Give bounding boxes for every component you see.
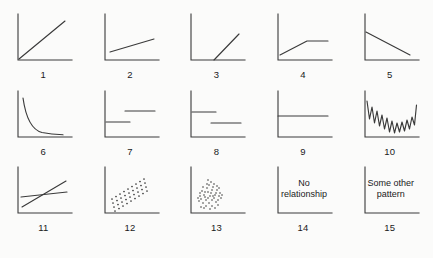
panel-cell-12: 12 [87,163,174,243]
panel-cell-8: 8 [173,87,260,167]
panel-cell-1: 1 [0,10,87,90]
panel-11-number: 11 [38,222,48,233]
panel-6-number: 6 [41,146,46,157]
panel-14-label: No relationship [270,178,336,207]
panel-5-plot [357,10,423,68]
panel-2-plot [97,10,163,68]
top-trim [0,0,433,7]
panel-6-plot [10,87,76,145]
panel-13-plot [183,163,249,221]
panel-7-plot [97,87,163,145]
panel-5-number: 5 [387,69,392,80]
panel-15-label: Some other pattern [357,178,423,207]
panel-cell-3: 3 [173,10,260,90]
panel-15-plot: Some other pattern [357,163,423,221]
panel-cell-11: 11 [0,163,87,243]
panel-12-number: 12 [124,222,135,233]
panel-1-plot [10,10,76,68]
panel-15-number: 15 [384,222,395,233]
pattern-figure: 1 2 3 [0,0,433,258]
panel-8-plot [183,87,249,145]
panel-8-number: 8 [214,146,219,157]
panel-cell-9: 9 [260,87,347,167]
panel-4-plot [270,10,336,68]
panel-15-text: Some other pattern [357,163,423,221]
panel-row-1: 1 2 3 [0,10,433,90]
panel-11-plot [10,163,76,221]
panel-14-plot: No relationship [270,163,336,221]
panel-12-plot [97,163,163,221]
panel-12-dots [111,178,148,212]
panel-cell-15: Some other pattern 15 [346,163,433,243]
panel-cell-6: 6 [0,87,87,167]
panel-9-number: 9 [300,146,305,157]
panel-13-number: 13 [211,222,222,233]
panel-cell-13: 13 [173,163,260,243]
panel-7-number: 7 [127,146,132,157]
panel-cell-5: 5 [346,10,433,90]
panel-2-number: 2 [127,69,132,80]
panel-13-dots [198,179,224,210]
panel-14-number: 14 [298,222,309,233]
panel-row-2: 6 7 8 [0,87,433,167]
panel-row-3: 11 [0,163,433,243]
panel-14-text: No relationship [270,163,336,221]
panel-cell-7: 7 [87,87,174,167]
panel-cell-14: No relationship 14 [260,163,347,243]
panel-1-number: 1 [41,69,46,80]
panel-9-plot [270,87,336,145]
panel-cell-4: 4 [260,10,347,90]
panel-10-number: 10 [384,146,395,157]
panel-cell-2: 2 [87,10,174,90]
panel-3-number: 3 [214,69,219,80]
panel-3-plot [183,10,249,68]
panel-10-plot [357,87,423,145]
panel-4-number: 4 [300,69,305,80]
panel-cell-10: 10 [346,87,433,167]
